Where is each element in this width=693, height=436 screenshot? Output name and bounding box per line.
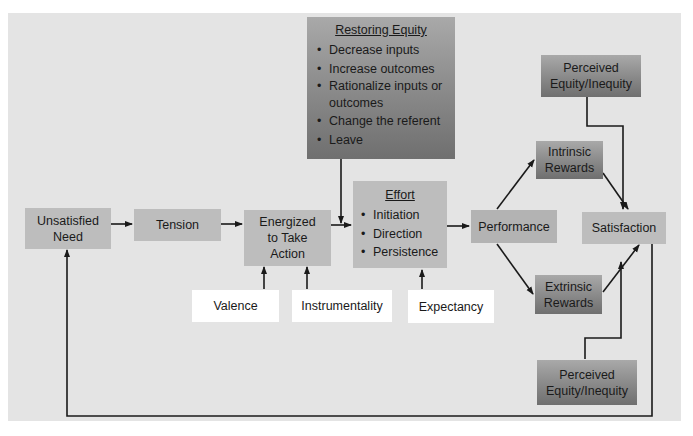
node-perceived-equity-top: Perceived Equity/Inequity [541, 55, 641, 97]
restoring-equity-item: Leave [315, 131, 447, 150]
effort-title: Effort [359, 188, 441, 202]
node-label: Satisfaction [592, 220, 657, 236]
node-instrumentality: Instrumentality [292, 290, 392, 322]
node-expectancy: Expectancy [408, 290, 494, 323]
node-tension: Tension [134, 209, 221, 241]
node-valence: Valence [192, 290, 279, 322]
restoring-equity-item: Rationalize inputs or outcomes [315, 78, 447, 112]
node-label: Energized to Take Action [255, 214, 321, 262]
restoring-equity-item: Increase outcomes [315, 60, 447, 79]
effort-item: Initiation [359, 206, 441, 225]
node-label: Intrinsic Rewards [542, 144, 598, 176]
node-label: Tension [156, 217, 199, 233]
effort-item: Direction [359, 225, 441, 244]
node-restoring-equity: Restoring Equity Decrease inputs Increas… [307, 17, 455, 159]
node-label: Unsatisfied Need [33, 213, 103, 245]
node-satisfaction: Satisfaction [582, 212, 666, 244]
node-label: Expectancy [419, 299, 484, 315]
restoring-equity-item: Decrease inputs [315, 41, 447, 60]
node-label: Extrinsic Rewards [541, 279, 597, 311]
restoring-equity-item: Change the referent [315, 112, 447, 131]
node-energized: Energized to Take Action [244, 210, 331, 266]
restoring-equity-title: Restoring Equity [315, 23, 447, 37]
node-perceived-equity-bottom: Perceived Equity/Inequity [537, 360, 637, 405]
node-label: Perceived Equity/Inequity [541, 367, 633, 399]
effort-item: Persistence [359, 243, 441, 262]
node-label: Performance [478, 219, 550, 235]
node-performance: Performance [471, 210, 557, 243]
node-label: Perceived Equity/Inequity [545, 60, 637, 92]
node-effort: Effort Initiation Direction Persistence [353, 181, 447, 268]
node-label: Valence [213, 298, 257, 314]
node-unsatisfied-need: Unsatisfied Need [25, 208, 111, 249]
node-label: Instrumentality [301, 298, 382, 314]
node-extrinsic-rewards: Extrinsic Rewards [535, 275, 602, 314]
node-intrinsic-rewards: Intrinsic Rewards [536, 141, 603, 179]
